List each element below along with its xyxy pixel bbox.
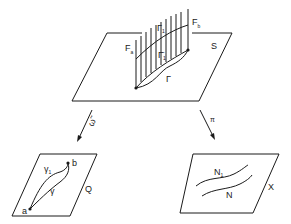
fibers [136,9,188,88]
label-s: S [211,41,217,51]
plane-s [72,33,232,101]
label-gamma-small: γ [50,186,55,196]
point-b [66,161,69,164]
plane-x [180,154,279,213]
label-gamma: Γ [166,74,171,84]
label-fa: Fa [125,43,134,55]
fiber-bundle-diagram: Fa Fb Γ1 Γ̄1 Γ S ω̃ π a b γ1 γ Q N1 N X [0,0,291,224]
label-a: a [22,206,27,216]
label-x: X [268,182,274,192]
label-pi: π [210,116,215,123]
label-n1: N1 [214,167,224,178]
label-omega: ω̃ [86,114,100,128]
point-a [28,207,31,210]
point-b-top [186,48,189,51]
arrow-pi [200,110,215,140]
point-a-top [134,86,137,89]
label-fb: Fb [192,17,201,29]
label-gamma1-small: γ1 [44,164,52,175]
label-b: b [72,158,77,168]
label-n: N [226,190,233,200]
label-gamma1: Γ1 [157,23,165,34]
label-gamma1-bar: Γ̄1 [158,50,166,61]
label-q: Q [85,184,92,194]
